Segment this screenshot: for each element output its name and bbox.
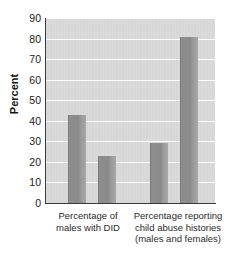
gridline — [46, 18, 215, 19]
x-axis-label-line: males with DID — [46, 222, 130, 234]
x-axis-label-line: Percentage of — [46, 210, 130, 222]
plot-area — [46, 18, 215, 203]
y-axis-tick-label-6: 60 — [11, 75, 41, 85]
x-axis-label-line: (males and females) — [128, 233, 228, 245]
bar-3 — [180, 37, 198, 204]
y-axis-tick-label-2: 20 — [11, 157, 41, 167]
y-axis-tick-label-9: 90 — [11, 13, 41, 23]
x-axis-category-label-1: Percentage reportingchild abuse historie… — [128, 210, 228, 245]
x-axis-label-line: Percentage reporting — [128, 210, 228, 222]
bar-0 — [68, 115, 86, 203]
y-axis-tick-label-0: 0 — [11, 198, 41, 208]
bar-2 — [150, 143, 168, 203]
y-axis-tick-label-4: 40 — [11, 116, 41, 126]
y-axis-line — [45, 18, 46, 204]
x-axis-label-line: child abuse histories — [128, 222, 228, 234]
y-axis-tick-label-5: 50 — [11, 95, 41, 105]
y-axis-tick-label-1: 10 — [11, 177, 41, 187]
y-axis-tick-label-7: 70 — [11, 54, 41, 64]
bar-chart: Percent 0102030405060708090 Percentage o… — [0, 0, 230, 259]
bar-1 — [98, 156, 116, 203]
x-axis-line — [45, 203, 216, 204]
x-axis-category-label-0: Percentage ofmales with DID — [46, 210, 130, 233]
y-axis-tick-label-3: 30 — [11, 136, 41, 146]
y-axis-tick-label-8: 80 — [11, 34, 41, 44]
